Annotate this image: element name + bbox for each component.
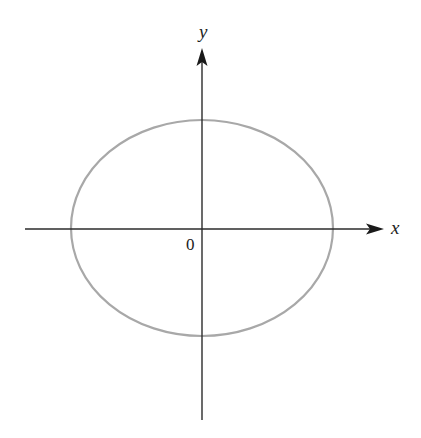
x-axis-label: x bbox=[390, 217, 400, 238]
origin-label: 0 bbox=[186, 235, 195, 254]
ellipse-diagram: y x 0 bbox=[0, 0, 421, 438]
diagram-canvas: y x 0 bbox=[0, 0, 421, 438]
y-axis-label: y bbox=[197, 21, 208, 42]
